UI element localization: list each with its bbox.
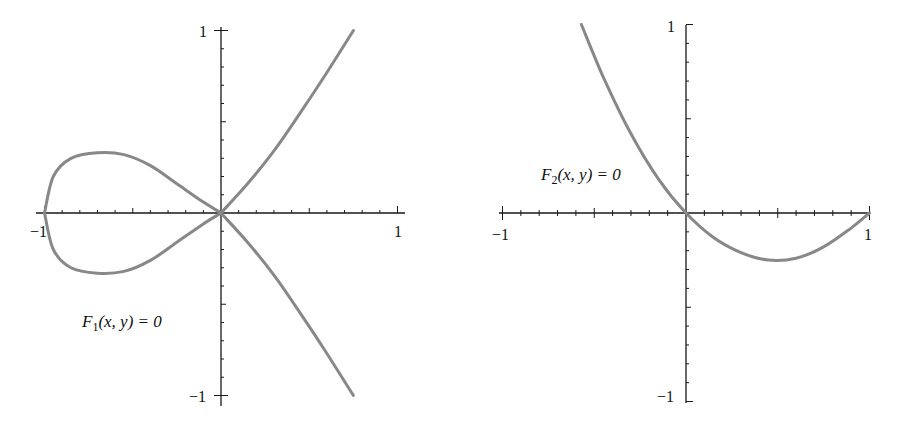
- curve-lower-loop: [45, 213, 222, 273]
- curve-lower-branch: [221, 213, 353, 396]
- plot-f2: −1 1 1 −1 F2(x, y) = 0: [492, 18, 872, 405]
- axes-f1: [36, 27, 405, 406]
- x-tick-label-max: 1: [394, 223, 402, 240]
- x-tick-label-min: −1: [30, 223, 47, 240]
- y-tick-label-min: −1: [657, 388, 674, 405]
- y-tick-label-max: 1: [199, 23, 207, 40]
- x-tick-label-min: −1: [492, 226, 509, 243]
- equation-label-f1: F1(x, y) = 0: [81, 312, 162, 334]
- curve-upper-loop: [45, 153, 222, 213]
- y-tick-label-min: −1: [189, 388, 206, 405]
- figure: −1 1 1 −1 F1(x, y) = 0 −1 1 1 −1 F2(x, y…: [0, 0, 901, 426]
- x-tick-label-max: 1: [864, 226, 872, 243]
- curve-upper-branch: [221, 31, 353, 214]
- axes-f2: [499, 25, 869, 403]
- curve-f2: [581, 25, 869, 261]
- equation-label-f2: F2(x, y) = 0: [540, 165, 621, 187]
- plot-f1: −1 1 1 −1 F1(x, y) = 0: [30, 23, 405, 406]
- y-tick-label-max: 1: [667, 18, 675, 35]
- curve-curve: [581, 25, 869, 261]
